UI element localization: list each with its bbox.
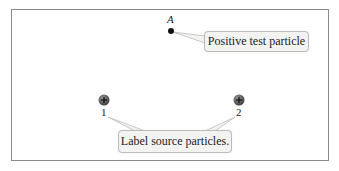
callout-source-particles: Label source particles. xyxy=(118,130,232,153)
source-particle-1-label: 1 xyxy=(101,106,107,118)
callout-test-particle: Positive test particle xyxy=(204,31,309,52)
positive-charge-icon xyxy=(98,94,110,106)
callout-source-particles-text: Label source particles. xyxy=(121,134,229,149)
callout-test-particle-text: Positive test particle xyxy=(208,34,305,49)
test-point-dot xyxy=(167,27,175,35)
positive-charge-icon xyxy=(233,94,245,106)
point-a-label: A xyxy=(167,13,174,25)
source-particle-2-label: 2 xyxy=(236,106,242,118)
